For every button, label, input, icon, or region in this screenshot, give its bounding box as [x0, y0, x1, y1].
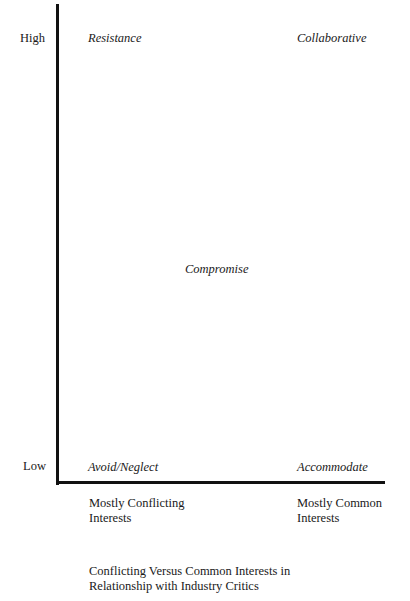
x-axis-left-label-line1: Mostly Conflicting — [89, 496, 219, 511]
x-axis-line — [56, 481, 385, 484]
center-compromise: Compromise — [185, 262, 248, 277]
x-axis-right-label-line1: Mostly Common — [297, 496, 407, 511]
x-axis-right-label: Mostly Common Interests — [297, 496, 407, 526]
x-axis-left-label: Mostly Conflicting Interests — [89, 496, 219, 526]
x-axis-title-line1: Conflicting Versus Common Interests in — [89, 564, 389, 579]
quadrant-collaborative: Collaborative — [297, 31, 366, 46]
quadrant-accommodate: Accommodate — [297, 460, 368, 475]
x-axis-title-line2: Relationship with Industry Critics — [89, 579, 389, 594]
y-axis-low-label: Low — [23, 459, 46, 474]
x-axis-title: Conflicting Versus Common Interests in R… — [89, 564, 389, 594]
x-axis-left-label-line2: Interests — [89, 511, 219, 526]
y-axis-line — [56, 4, 59, 485]
x-axis-right-label-line2: Interests — [297, 511, 407, 526]
quadrant-avoid-neglect: Avoid/Neglect — [88, 460, 158, 475]
quadrant-resistance: Resistance — [88, 31, 141, 46]
y-axis-high-label: High — [20, 31, 45, 46]
